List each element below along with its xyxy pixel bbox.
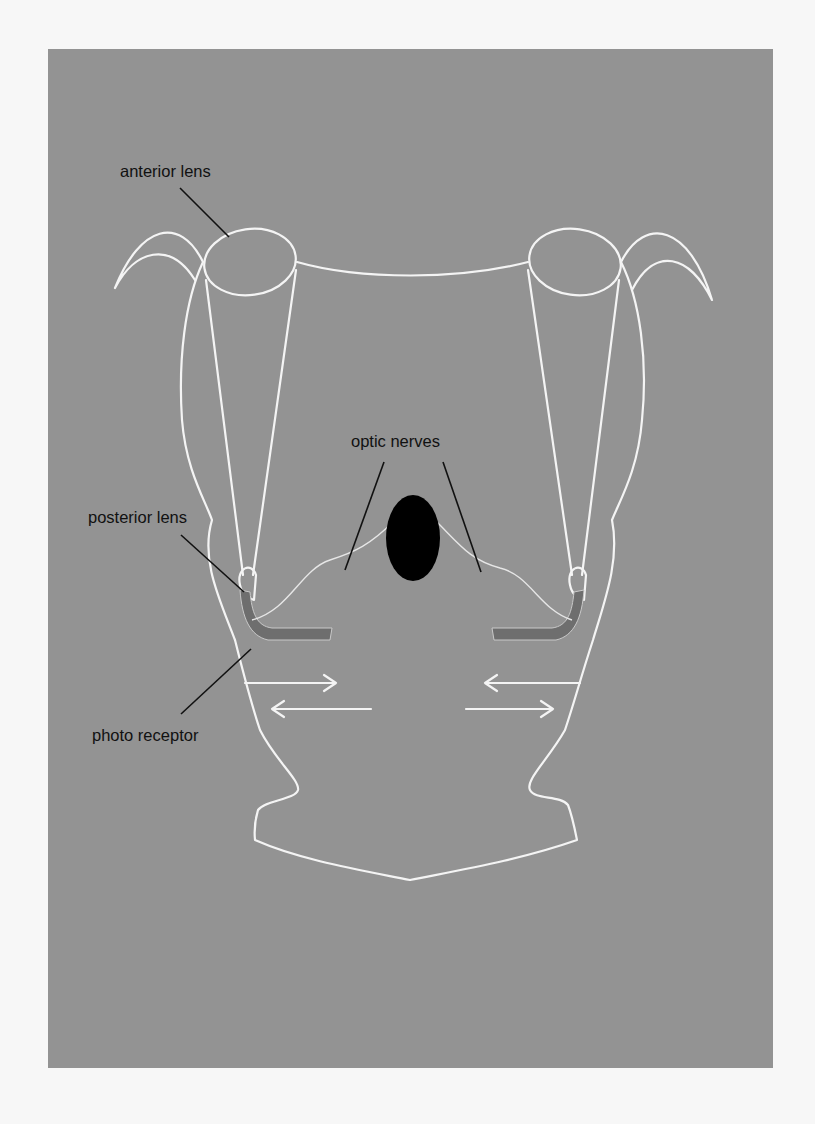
head-top (297, 262, 528, 276)
right-horn (621, 233, 712, 300)
left-eye-cone (206, 270, 296, 575)
label-posterior-lens: posterior lens (88, 508, 187, 527)
arrow-right-top (485, 675, 580, 691)
leader-optic-nerve-left (345, 462, 384, 570)
leader-posterior-lens (181, 535, 244, 592)
brain-ganglion (386, 495, 440, 581)
right-photo-receptor (492, 590, 584, 640)
label-photo-receptor: photo receptor (92, 726, 198, 745)
leader-optic-nerve-right (443, 462, 481, 572)
right-anterior-lens (525, 223, 625, 301)
left-anterior-lens (200, 223, 300, 301)
arrow-left-top (245, 675, 336, 691)
light-arrows (245, 675, 580, 717)
label-optic-nerves: optic nerves (351, 432, 440, 451)
left-horn (115, 233, 203, 288)
right-eye-cone (528, 270, 619, 575)
label-anterior-lens: anterior lens (120, 162, 211, 181)
arrow-left-bottom (272, 701, 371, 717)
leader-photo-receptor (181, 649, 251, 714)
photoreceptors (240, 590, 584, 640)
arrow-right-bottom (466, 701, 553, 717)
leader-anterior-lens (180, 188, 229, 237)
